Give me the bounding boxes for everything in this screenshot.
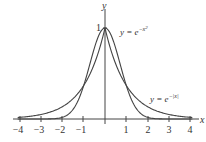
svg-text:4: 4 — [188, 124, 193, 135]
plot-area: x y 1 −4 −3 −2 −1 1 2 3 4 y = e−x2 y = e… — [0, 0, 206, 142]
y-axis-label: y — [101, 0, 107, 11]
svg-text:1: 1 — [124, 124, 129, 135]
gaussian-label: y = e−x2 — [119, 25, 148, 37]
svg-text:−1: −1 — [76, 124, 87, 135]
svg-text:2: 2 — [146, 124, 151, 135]
laplace-label: y = e−|x| — [149, 93, 179, 104]
chart: x y 1 −4 −3 −2 −1 1 2 3 4 y = e−x2 y = e… — [0, 0, 206, 142]
svg-text:−2: −2 — [55, 124, 66, 135]
svg-text:−4: −4 — [13, 124, 24, 135]
x-tick-labels: −4 −3 −2 −1 1 2 3 4 — [13, 124, 193, 135]
svg-text:3: 3 — [167, 124, 172, 135]
x-axis-label: x — [199, 114, 205, 125]
svg-text:−3: −3 — [34, 124, 45, 135]
